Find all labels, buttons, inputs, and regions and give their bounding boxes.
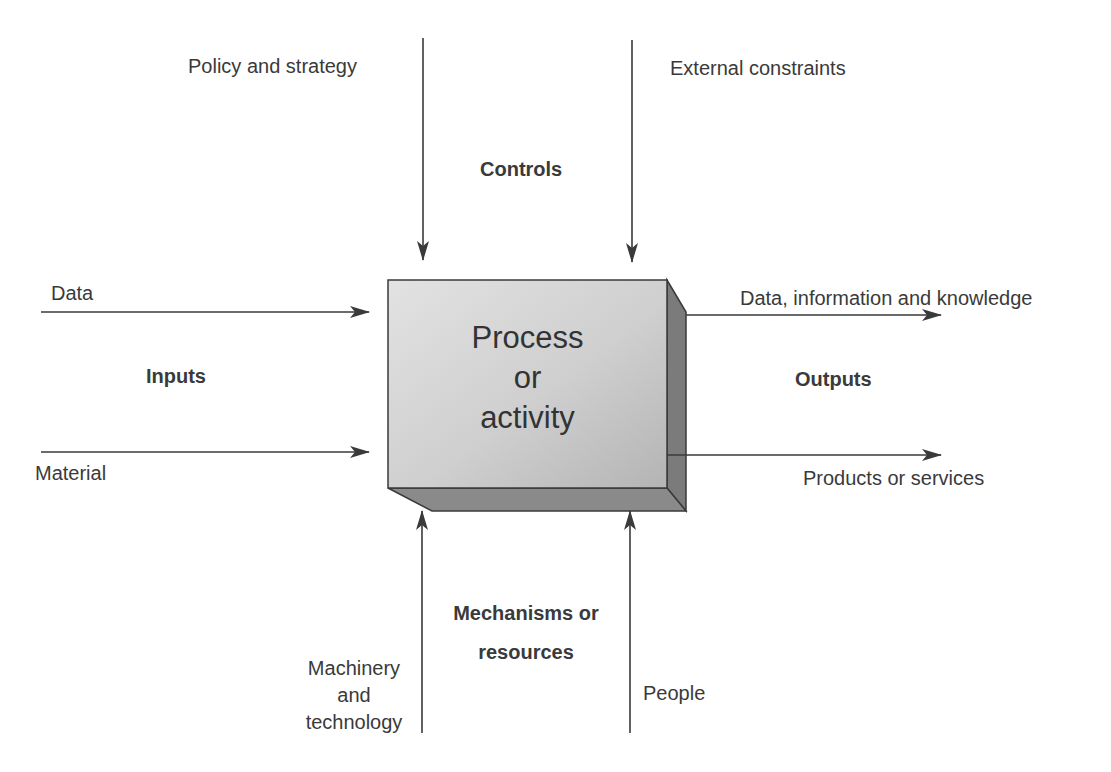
mechanisms-heading-line: resources — [432, 633, 620, 672]
process-label-line: activity — [388, 398, 667, 438]
output-label-products: Products or services — [803, 466, 984, 490]
process-label: Process or activity — [388, 318, 667, 438]
output-label-information: Data, information and knowledge — [740, 286, 1032, 310]
mechanism-label-line: technology — [290, 709, 418, 736]
control-label-policy: Policy and strategy — [188, 54, 357, 78]
controls-heading: Controls — [480, 157, 562, 181]
inputs-heading: Inputs — [146, 364, 206, 388]
outputs-heading: Outputs — [795, 367, 872, 391]
mechanism-label-people: People — [643, 681, 705, 705]
control-label-constraints: External constraints — [670, 56, 846, 80]
box-side-face — [667, 280, 686, 511]
box-bottom-face — [388, 488, 686, 511]
mechanisms-heading-line: Mechanisms or — [432, 594, 620, 633]
input-label-material: Material — [35, 461, 106, 485]
idef0-diagram: Process or activity Policy and strategy … — [0, 0, 1111, 772]
process-label-line: or — [388, 358, 667, 398]
mechanism-label-machinery: Machinery and technology — [290, 655, 418, 736]
process-label-line: Process — [388, 318, 667, 358]
mechanisms-heading: Mechanisms or resources — [432, 594, 620, 672]
mechanism-label-line: Machinery — [290, 655, 418, 682]
mechanism-label-line: and — [290, 682, 418, 709]
input-label-data: Data — [51, 281, 93, 305]
